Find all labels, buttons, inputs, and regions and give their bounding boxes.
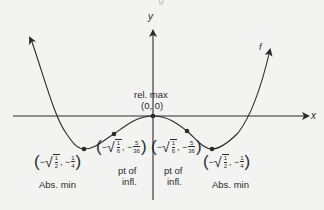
- y-axis-label: y: [148, 12, 153, 22]
- point-abs-min-left: [82, 147, 87, 152]
- infl-right-caption-2: infl.: [167, 177, 182, 187]
- infl-right-caption-1: pt of: [164, 166, 183, 176]
- abs-min-left-coord: (− √12 , − 14): [34, 153, 81, 170]
- abs-min-right-coord: (− √12 , − 14): [203, 153, 250, 170]
- infl-left-caption-1: pt of: [118, 166, 137, 176]
- abs-min-right-caption: Abs. min: [212, 180, 249, 190]
- infl-left-coord: (− √16 , − 536): [96, 138, 147, 155]
- abs-min-left-caption: Abs. min: [39, 180, 76, 190]
- point-rel-max: [151, 114, 156, 119]
- point-infl-right: [185, 129, 190, 134]
- point-infl-left: [112, 132, 117, 137]
- rel-max-title: rel. max: [134, 90, 168, 100]
- rel-max-coord: (0, 0): [141, 101, 163, 111]
- infl-left-caption-2: infl.: [122, 177, 137, 187]
- curve-label: f: [259, 42, 262, 52]
- infl-right-coord: (− √16 , − 536): [151, 138, 202, 155]
- point-abs-min-right: [210, 147, 215, 152]
- x-axis-label: x: [311, 111, 316, 121]
